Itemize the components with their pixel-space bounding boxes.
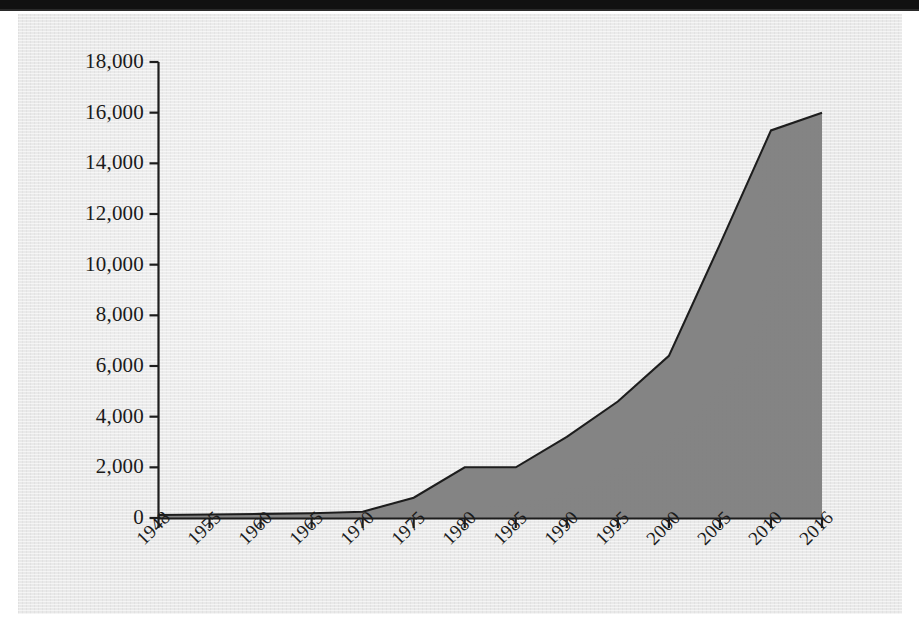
figure-page: 02,0004,0006,0008,00010,00012,00014,0001… bbox=[0, 0, 919, 626]
y-tick-label: 16,000 bbox=[40, 100, 144, 125]
y-tick-label: 10,000 bbox=[40, 252, 144, 277]
y-tick-label: 8,000 bbox=[40, 302, 144, 327]
y-tick-label: 14,000 bbox=[40, 150, 144, 175]
y-tick-label: 4,000 bbox=[40, 404, 144, 429]
y-axis-tickmarks bbox=[150, 62, 159, 518]
area-series-fill bbox=[159, 113, 823, 518]
y-tick-label: 12,000 bbox=[40, 201, 144, 226]
y-tick-label: 6,000 bbox=[40, 353, 144, 378]
y-tick-label: 0 bbox=[40, 505, 144, 530]
y-tick-label: 2,000 bbox=[40, 454, 144, 479]
y-tick-label: 18,000 bbox=[40, 49, 144, 74]
chart-area-fill-group bbox=[159, 113, 823, 518]
